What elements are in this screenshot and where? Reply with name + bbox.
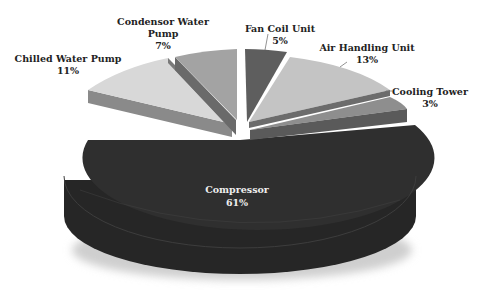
label-chilled-pct: 11%: [57, 65, 79, 76]
label-condensor-line2: Pump: [148, 28, 179, 39]
label-fan-coil-name: Fan Coil Unit: [245, 23, 316, 34]
label-condensor-line1: Condensor Water: [117, 16, 210, 27]
label-condensor-pct: 7%: [155, 40, 171, 51]
leader-fan-coil: [265, 34, 268, 50]
label-compressor-name: Compressor: [205, 184, 270, 195]
label-fan-coil-pct: 5%: [272, 35, 288, 46]
pie-chart: Condensor Water Pump 7% Chilled Water Pu…: [0, 0, 484, 293]
label-chilled-name: Chilled Water Pump: [15, 53, 122, 64]
leader-ahu: [340, 62, 347, 67]
label-ahu-name: Air Handling Unit: [318, 42, 415, 53]
label-ahu-pct: 13%: [356, 54, 378, 65]
label-cooling-name: Cooling Tower: [392, 86, 469, 97]
label-cooling-pct: 3%: [422, 98, 438, 109]
label-compressor-pct: 61%: [226, 197, 248, 208]
